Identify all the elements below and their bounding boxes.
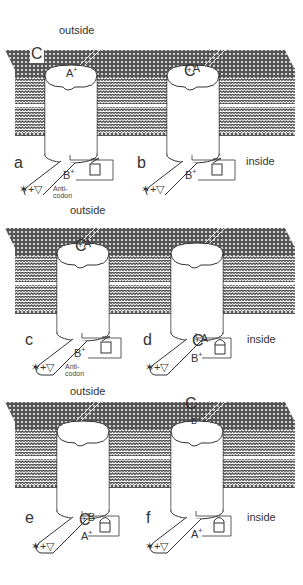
pore-label-a: A+ (66, 66, 77, 79)
channel-letter-f: f (146, 509, 150, 527)
pore-label-f: B+ (191, 415, 201, 426)
base-label-e: A+ (81, 529, 92, 542)
pore-label-c: C+A (75, 237, 99, 255)
base-label-d: B+ (191, 351, 202, 364)
channel-letter-b: b (137, 154, 146, 172)
outside-label: outside (59, 24, 94, 36)
lock-closed-icon (215, 340, 225, 355)
outside-label: outside (70, 385, 105, 397)
bound-c-d: C+A (192, 332, 216, 350)
panel-bottom: outside e C+B A+ ✶+▽ C B+ f A+ ✶+▽ insid… (0, 385, 303, 580)
base-label-b: B+ (185, 168, 196, 181)
free-c-molecule: C (30, 45, 44, 63)
anticodon-label-c: Anti-codon (65, 363, 84, 377)
base-label-c: B+ (74, 346, 85, 359)
inside-label: inside (247, 511, 276, 523)
inside-label: inside (247, 333, 276, 345)
base-label-a: B+ (63, 168, 74, 181)
panel-top: outside C A+ a B+ ✶+▽ Anti-codon C+A b B… (0, 0, 303, 195)
tail-symbols-c: ✶+▽ (31, 361, 54, 374)
outside-label: outside (70, 204, 105, 216)
base-label-f: A+ (191, 527, 202, 540)
lock-open-icon (90, 164, 100, 175)
bound-c-e: C+B (79, 511, 103, 529)
channel-letter-d: d (143, 331, 152, 349)
channel-letter-c: c (25, 331, 33, 349)
channel-letter-a: a (14, 154, 23, 172)
channel-letter-e: e (25, 509, 34, 527)
tail-symbols-d: ✶+▽ (145, 361, 168, 374)
free-c-molecule-f: C (185, 395, 197, 413)
inside-label: inside (246, 155, 275, 167)
pore-label-b: C+A (184, 62, 208, 80)
panel-middle: outside C+A c B+ ✶+▽ Anti-codon d C+A B+… (0, 190, 303, 385)
tail-symbols-f: ✶+▽ (145, 540, 168, 553)
tail-symbols-e: ✶+▽ (31, 540, 54, 553)
